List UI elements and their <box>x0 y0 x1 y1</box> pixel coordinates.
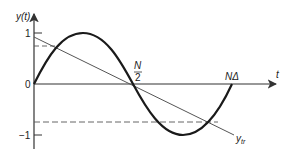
trend-label: ytr <box>235 133 246 145</box>
x-axis-label: t <box>276 69 280 80</box>
sine-trend-diagram: y(t) 1 0 −1 N 2 NΔ t ytr <box>0 0 295 154</box>
tick-one-label: 1 <box>25 28 31 39</box>
half-label-denominator: 2 <box>135 72 141 83</box>
half-label-numerator: N <box>134 60 142 71</box>
tick-minus-one-label: −1 <box>19 130 31 141</box>
y-axis-label: y(t) <box>15 11 30 22</box>
tick-zero-label: 0 <box>25 79 31 90</box>
trend-label-sub: tr <box>241 138 246 145</box>
end-label: NΔ <box>225 71 239 82</box>
